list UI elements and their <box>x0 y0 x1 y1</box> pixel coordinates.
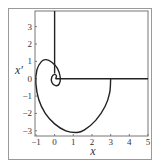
x-tick-label: −1 <box>31 137 41 147</box>
y-tick-label: 0 <box>28 74 33 84</box>
x-tick-label: 1 <box>71 137 76 147</box>
y-tick-label: −1 <box>22 91 32 101</box>
plot-area <box>35 11 148 136</box>
y-tick-label: 2 <box>28 39 33 49</box>
phase-portrait-chart: −1012345 −3−2−10123 x x′ <box>0 0 158 163</box>
x-tick-label: 0 <box>52 137 57 147</box>
x-tick-label: 4 <box>127 137 132 147</box>
y-tick-label: 3 <box>28 22 33 32</box>
y-tick-label: −2 <box>22 108 32 118</box>
x-axis-label: x <box>89 144 96 158</box>
x-tick-label: 3 <box>108 137 113 147</box>
y-tick-label: 1 <box>28 56 33 66</box>
y-tick-label: −3 <box>22 126 32 136</box>
data-series <box>36 11 148 133</box>
spiral-trajectory-line <box>36 60 111 133</box>
x-tick-label: 5 <box>146 137 151 147</box>
y-axis-label: x′ <box>14 63 23 77</box>
